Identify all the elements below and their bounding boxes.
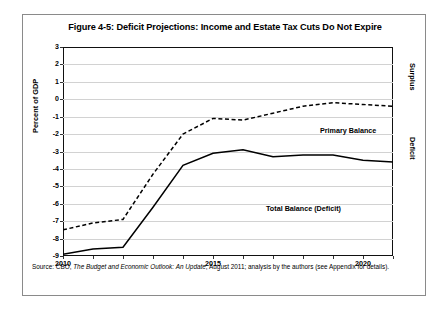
y-tick-label: -1 bbox=[37, 113, 59, 120]
series-label-total: Total Balance (Deficit) bbox=[266, 204, 341, 213]
y-tick-mark bbox=[60, 82, 63, 83]
line-primary-balance bbox=[63, 103, 393, 230]
y-tick-label: 3 bbox=[37, 43, 59, 50]
y-tick-mark bbox=[60, 152, 63, 153]
y-tick-label: -4 bbox=[37, 165, 59, 172]
y-axis-label: Percent of GDP bbox=[31, 79, 40, 133]
y-tick-mark bbox=[60, 99, 63, 100]
right-axis-label-surplus: Surplus bbox=[408, 63, 417, 91]
figure-title: Figure 4-5: Deficit Projections: Income … bbox=[23, 22, 427, 32]
plot-wrapper: Primary Balance Total Balance (Deficit) … bbox=[63, 47, 393, 256]
x-tick-mark bbox=[273, 256, 274, 259]
y-tick-label: -7 bbox=[37, 217, 59, 224]
x-tick-mark bbox=[393, 256, 394, 259]
y-tick-mark bbox=[60, 204, 63, 205]
gridline bbox=[63, 256, 393, 257]
series-lines bbox=[63, 47, 393, 256]
x-tick-mark bbox=[183, 256, 184, 259]
line-total-balance bbox=[63, 150, 393, 254]
y-tick-label: -9 bbox=[37, 252, 59, 259]
y-tick-mark bbox=[60, 134, 63, 135]
right-axis-label-deficit: Deficit bbox=[408, 137, 417, 160]
source-publication-title: The Budget and Economic Outlook: An Upda… bbox=[73, 263, 206, 270]
x-tick-mark bbox=[303, 256, 304, 259]
source-prefix: Source: CBO, bbox=[32, 263, 73, 270]
y-tick-label: 2 bbox=[37, 60, 59, 67]
y-tick-mark bbox=[60, 169, 63, 170]
y-tick-label: -8 bbox=[37, 235, 59, 242]
source-note: Source: CBO, The Budget and Economic Out… bbox=[32, 262, 418, 272]
y-tick-label: 0 bbox=[37, 95, 59, 102]
x-tick-mark bbox=[333, 256, 334, 259]
source-suffix: , August 2011; analysis by the authors (… bbox=[206, 263, 389, 270]
y-tick-mark bbox=[60, 64, 63, 65]
y-tick-label: -6 bbox=[37, 200, 59, 207]
y-tick-label: -5 bbox=[37, 182, 59, 189]
x-tick-mark bbox=[93, 256, 94, 259]
y-tick-mark bbox=[60, 186, 63, 187]
y-tick-label: 1 bbox=[37, 78, 59, 85]
y-tick-label: -2 bbox=[37, 130, 59, 137]
y-tick-mark bbox=[60, 117, 63, 118]
y-tick-mark bbox=[60, 47, 63, 48]
y-tick-label: -3 bbox=[37, 148, 59, 155]
y-tick-mark bbox=[60, 221, 63, 222]
x-tick-mark bbox=[243, 256, 244, 259]
figure-container: Figure 4-5: Deficit Projections: Income … bbox=[22, 14, 426, 296]
x-tick-mark bbox=[153, 256, 154, 259]
y-tick-mark bbox=[60, 239, 63, 240]
series-label-primary: Primary Balance bbox=[320, 126, 376, 135]
x-tick-mark bbox=[123, 256, 124, 259]
